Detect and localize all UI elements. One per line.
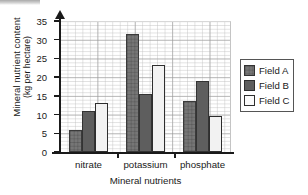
legend-item-field-a: Field A [244, 63, 289, 78]
bar-phosphate-field-b [196, 81, 208, 152]
y-tick-label-20: 20 [0, 72, 52, 83]
bar-potassium-field-b [139, 94, 151, 152]
legend-item-field-c: Field C [244, 93, 289, 108]
x-group-separator-0 [117, 153, 119, 158]
y-tick-25 [54, 58, 60, 60]
bar-nitrate-field-a [69, 130, 81, 152]
y-tick-label-35: 35 [0, 16, 52, 27]
x-tick-label-potassium: potassium [123, 159, 167, 170]
y-tick-35 [54, 20, 60, 22]
y-tick-label-25: 25 [0, 53, 52, 64]
y-tick-0 [54, 151, 60, 153]
x-axis-line [52, 152, 234, 154]
y-tick-label-0: 0 [0, 147, 52, 158]
field-b-swatch-icon [244, 80, 255, 91]
bar-group-potassium [126, 21, 164, 152]
bar-nitrate-field-b [82, 111, 94, 152]
bar-potassium-field-c [152, 65, 164, 152]
legend-label-field-c: Field C [259, 95, 289, 106]
y-tick-label-15: 15 [0, 90, 52, 101]
legend-label-field-b: Field B [259, 80, 289, 91]
y-axis-title-line-1: Mineral nutrient content [11, 17, 23, 116]
bar-phosphate-field-c [209, 116, 221, 152]
bar-group-nitrate [69, 21, 107, 152]
x-tick-label-nitrate: nitrate [75, 159, 102, 170]
y-axis-arrow-icon [55, 10, 65, 19]
y-tick-20 [54, 76, 60, 78]
chart-legend: Field A Field B Field C [240, 59, 294, 112]
field-a-swatch-icon [244, 65, 255, 76]
x-group-separator-1 [174, 153, 176, 158]
x-axis-title: Mineral nutrients [60, 175, 231, 186]
y-tick-label-10: 10 [0, 109, 52, 120]
x-tick-label-phosphate: phosphate [180, 159, 225, 170]
bar-phosphate-field-a [183, 101, 195, 152]
bar-chart-figure: Mineral nutrient content (kg per hectare… [0, 0, 308, 195]
legend-item-field-b: Field B [244, 78, 289, 93]
y-axis-title-line-2: (kg per hectare) [22, 17, 34, 116]
y-tick-label-30: 30 [0, 34, 52, 45]
bar-nitrate-field-c [95, 103, 107, 152]
y-tick-30 [54, 39, 60, 41]
bar-potassium-field-a [126, 34, 138, 152]
y-tick-5 [54, 133, 60, 135]
legend-label-field-a: Field A [259, 65, 288, 76]
y-tick-label-5: 5 [0, 128, 52, 139]
y-tick-15 [54, 95, 60, 97]
bar-group-phosphate [183, 21, 221, 152]
field-c-swatch-icon [244, 95, 255, 106]
y-tick-10 [54, 114, 60, 116]
